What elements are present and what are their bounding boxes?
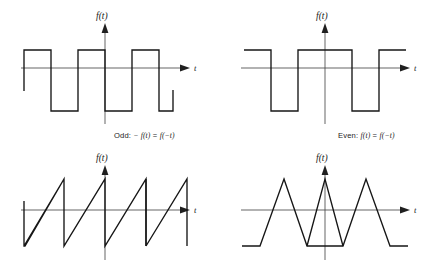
caption-even: Even: f(t) = f(−t): [338, 131, 395, 140]
waveform-path: [24, 50, 173, 111]
t-axis: [241, 207, 410, 214]
y-axis-label: f(t): [316, 11, 328, 22]
caption-odd-math-2: f(−t): [160, 131, 175, 140]
waveform-path: [24, 179, 146, 246]
panel-odd-sawtooth-wave: f(t) t: [8, 148, 223, 266]
panel-odd-square-wave: f(t) t Odd: − f(t) = f(−t): [8, 6, 223, 124]
y-axis-label: f(t): [96, 153, 108, 164]
plot-even-square-wave: f(t) t: [228, 6, 443, 124]
caption-odd-eq: =: [151, 131, 160, 140]
f-axis: [322, 23, 329, 124]
x-axis-label: t: [194, 63, 197, 73]
x-axis-label: t: [414, 63, 417, 73]
caption-even-prefix: Even:: [338, 131, 360, 140]
caption-even-math-1: f(t): [360, 131, 370, 140]
plot-even-trapezoid-wave: f(t) t: [228, 148, 443, 266]
plot-odd-square-wave: f(t) t: [8, 6, 223, 124]
panel-even-trapezoid-wave: f(t) t: [228, 148, 443, 266]
t-axis: [241, 65, 410, 72]
plot-odd-sawtooth-wave: f(t) t: [8, 148, 223, 266]
panel-even-square-wave: f(t) t Even: f(t) = f(−t): [228, 6, 443, 124]
figure-root: f(t) t Odd: − f(t) = f(−t) f(t) t Even: [0, 0, 446, 271]
caption-odd-prefix: Odd:: [114, 131, 133, 140]
caption-odd: Odd: − f(t) = f(−t): [114, 131, 175, 140]
x-axis-label: t: [414, 205, 417, 215]
y-axis-label: f(t): [96, 11, 108, 22]
caption-odd-math-1: − f(t): [133, 131, 150, 140]
y-axis-label: f(t): [316, 153, 328, 164]
caption-even-math-2: f(−t): [379, 131, 394, 140]
x-axis-label: t: [194, 205, 197, 215]
